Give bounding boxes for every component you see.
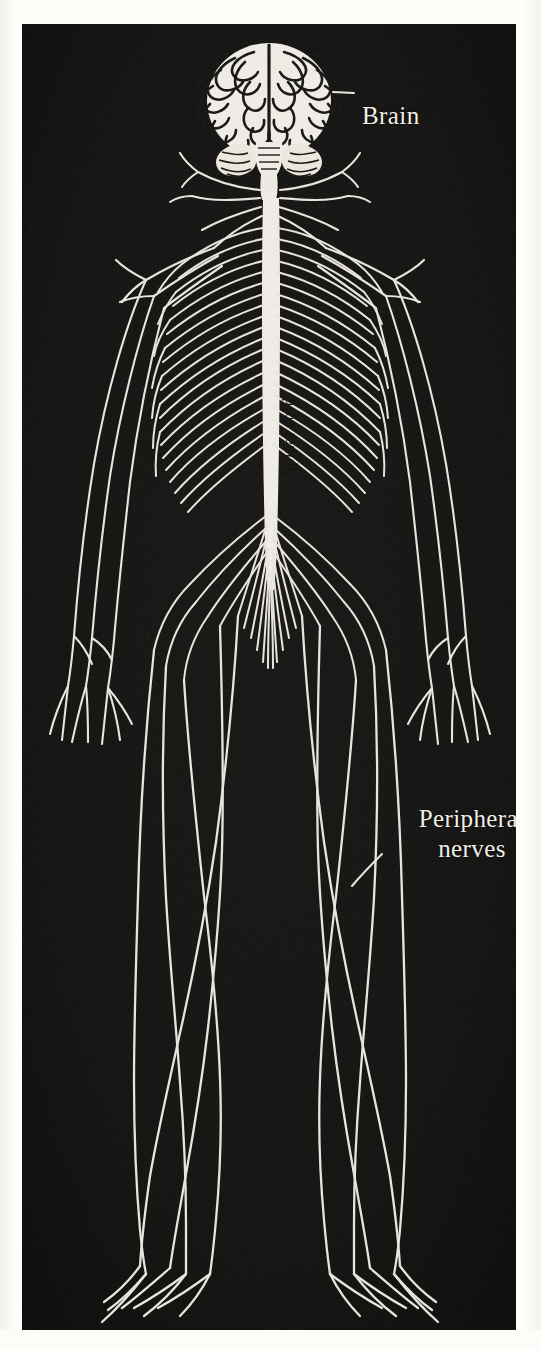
page-margin-bottom (0, 1330, 541, 1350)
label-peripheral-nerves: Peripheralnerves (402, 804, 516, 864)
label-peripheral-line2: nerves (402, 834, 516, 864)
label-brain: Brain (362, 102, 420, 130)
print-grain (22, 24, 516, 1330)
printed-plate: Brain Peripheralnerves Spinal cord (22, 24, 516, 1330)
label-spinal-cord: Spinal cord (280, 397, 298, 476)
page-margin-top (0, 0, 541, 26)
nervous-system-diagram (22, 24, 516, 1330)
page-margin-left (0, 0, 24, 1350)
page-margin-right (513, 0, 541, 1350)
label-peripheral-line1: Peripheral (419, 805, 516, 832)
nervous-system-figure: Brain Peripheralnerves Spinal cord (0, 0, 541, 1350)
